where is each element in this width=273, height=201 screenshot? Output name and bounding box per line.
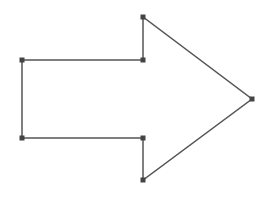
arrow-shape[interactable] [22, 17, 252, 180]
vertex-handle-head-top[interactable] [141, 15, 146, 20]
vertex-handle-tip[interactable] [250, 97, 255, 102]
vertex-handle-shaft-top-right[interactable] [141, 58, 146, 63]
vertex-handle-left-top[interactable] [20, 58, 25, 63]
vertex-handle-head-bottom[interactable] [141, 178, 146, 183]
vertex-handle-left-bottom[interactable] [20, 136, 25, 141]
vertex-handle-shaft-bottom-right[interactable] [141, 136, 146, 141]
diagram-canvas [0, 0, 273, 201]
